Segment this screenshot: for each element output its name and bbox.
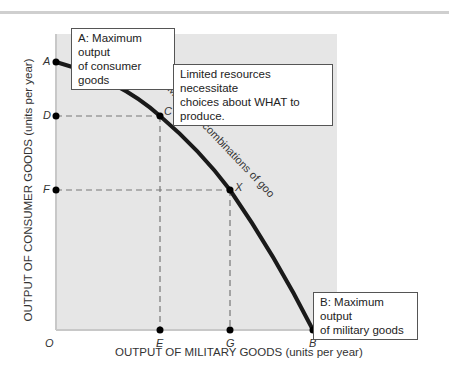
point-f — [53, 187, 60, 194]
label-a: A — [43, 55, 50, 67]
point-c — [157, 113, 164, 120]
box-b-line2: of military goods — [320, 323, 411, 337]
annotation-box-limited-resources: Limited resources necessitate choices ab… — [173, 64, 333, 126]
label-f: F — [43, 183, 50, 195]
point-g — [227, 327, 234, 334]
y-axis-label: OUTPUT OF CONSUMER GOODS (units per year… — [22, 58, 34, 321]
annotation-box-a: A: Maximum output of consumer goods — [71, 28, 175, 90]
annotation-box-b: B: Maximum output of military goods — [313, 292, 418, 340]
label-origin: O — [45, 337, 54, 349]
point-x — [227, 187, 234, 194]
label-c: C — [164, 105, 172, 117]
x-axis-label: OUTPUT OF MILITARY GOODS (units per year… — [115, 346, 363, 358]
point-e — [157, 327, 164, 334]
point-d — [53, 113, 60, 120]
box-a-line1: A: Maximum output — [78, 31, 168, 59]
label-x: X — [235, 181, 242, 193]
point-a — [53, 59, 60, 66]
box-a-line2: of consumer goods — [78, 59, 168, 87]
label-d: D — [43, 109, 51, 121]
box-mid-line1: Limited resources necessitate — [180, 67, 326, 95]
box-b-line1: B: Maximum output — [320, 295, 411, 323]
box-mid-line2: choices about WHAT to produce. — [180, 95, 326, 123]
